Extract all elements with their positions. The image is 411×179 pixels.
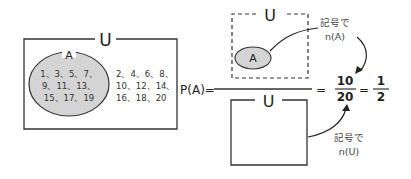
arrow-to-numerator (357, 37, 366, 71)
set-a-label: A (65, 49, 73, 62)
notation-value: n(U) (339, 146, 359, 157)
fraction2-numerator: 1 (377, 74, 385, 88)
arrowhead-icon (342, 104, 350, 111)
complement-numbers-line: 10、12、14、 (116, 81, 175, 91)
universe-label: U (263, 92, 275, 111)
set-a-numbers-line: 1、3、5、7、 (40, 69, 98, 79)
notation-note: 記号で (334, 132, 364, 143)
notation-note: 記号で (320, 17, 350, 28)
diagram-canvas: U A 1、3、5、7、 9、11、13、 15、17、19 2、4、6、8、 … (0, 0, 411, 179)
equals-sign: = (359, 83, 369, 97)
set-a-numbers-line: 9、11、13、 (42, 81, 96, 91)
arrowhead-icon (355, 66, 363, 74)
universe-label: U (264, 6, 276, 25)
universe-label: U (99, 30, 111, 50)
fraction1-denominator: 20 (337, 90, 354, 104)
numerator-venn-diagram: U A 記号で n(A) (232, 6, 366, 78)
complement-numbers-line: 2、4、6、8、 (116, 69, 174, 79)
fraction2-denominator: 2 (377, 90, 385, 104)
left-venn-diagram: U A 1、3、5、7、 9、11、13、 15、17、19 2、4、6、8、 … (24, 30, 177, 129)
equals-sign: = (316, 83, 326, 97)
complement-numbers-line: 16、18、20 (116, 93, 166, 103)
fraction1-numerator: 10 (337, 74, 354, 88)
set-a-label: A (249, 52, 257, 65)
formula-lhs: P(A)= (180, 83, 215, 97)
set-a-numbers-line: 15、17、19 (44, 93, 94, 103)
notation-value: n(A) (325, 31, 345, 42)
arrow-connector (270, 28, 318, 51)
